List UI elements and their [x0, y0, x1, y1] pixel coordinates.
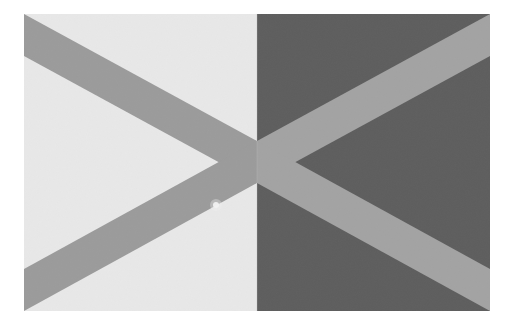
screenshot-canvas: Abstract photograph of a wall divided in…	[0, 0, 514, 329]
scene-alt-text: Abstract photograph of a wall divided in…	[0, 0, 1, 1]
grain-overlay	[24, 14, 490, 311]
composition-svg	[24, 14, 490, 311]
scene-title: Two-tone geometric wall with converging …	[0, 0, 1, 1]
photograph-area	[24, 14, 490, 311]
scene-description: A rectangular photographic surface split…	[0, 0, 1, 1]
